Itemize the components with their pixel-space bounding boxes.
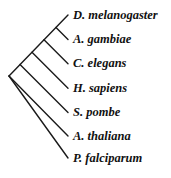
taxon-label-h-sapiens: H. sapiens (73, 81, 127, 95)
taxon-label-a-thaliana: A. thaliana (73, 129, 131, 143)
taxon-label-p-falciparum: P. falciparum (73, 151, 142, 165)
branch-a-gambiae (56, 27, 68, 39)
taxon-label-c-elegans: C. elegans (73, 56, 126, 70)
branch-a-thaliana (9, 76, 68, 136)
branch-p-falciparum (9, 76, 68, 158)
branch-c-elegans (44, 40, 68, 64)
branch-d-melanogaster (9, 15, 68, 76)
taxon-label-a-gambiae: A. gambiae (73, 32, 131, 46)
taxon-label-s-pombe: S. pombe (73, 105, 120, 119)
branch-s-pombe (20, 65, 68, 113)
taxon-label-d-melanogaster: D. melanogaster (73, 8, 158, 22)
